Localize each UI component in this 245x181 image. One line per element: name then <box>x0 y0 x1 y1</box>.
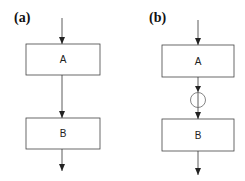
arrowhead-icon <box>195 86 201 92</box>
arrowhead-icon <box>59 37 65 44</box>
panel-a: (a) A B <box>14 10 100 171</box>
arrowhead-icon <box>195 168 201 175</box>
diagram: (a) A B (b) A B <box>0 0 245 181</box>
arrowhead-icon <box>59 111 65 118</box>
box-a-label: A <box>60 54 67 65</box>
panel-a-label: (a) <box>14 10 31 26</box>
arrowhead-icon <box>195 38 201 45</box>
box-a-label: A <box>195 56 202 67</box>
arrowhead-icon <box>195 112 201 119</box>
arrowhead-icon <box>59 164 65 171</box>
panel-b-label: (b) <box>149 10 166 26</box>
box-b-label: B <box>60 128 67 139</box>
panel-b: (b) A B <box>149 10 234 175</box>
box-b-label: B <box>195 130 202 141</box>
